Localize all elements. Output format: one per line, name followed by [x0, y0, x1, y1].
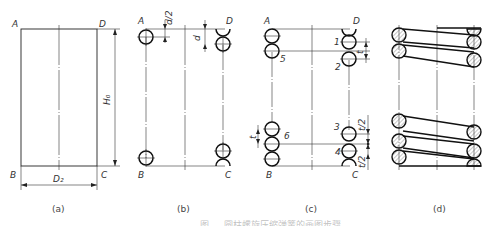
corner-label-a: A: [11, 19, 18, 29]
corner-label-d: D: [353, 16, 360, 26]
panel-b: d/2 d A D B C (b): [137, 10, 233, 214]
half-wire-dim-label: d/2: [164, 10, 174, 25]
half-pitch-top-label: t/2: [357, 118, 367, 131]
coil-number-6: 6: [284, 131, 290, 141]
coil-number-5: 5: [280, 54, 286, 64]
corner-label-d: D: [99, 19, 106, 29]
corner-label-b: B: [138, 170, 144, 180]
coil-number-1: 1: [334, 37, 340, 47]
coil-number-4: 4: [335, 147, 341, 157]
coil-number-3: 3: [334, 122, 340, 132]
panel-caption-c: (c): [305, 204, 317, 214]
corner-label-a: A: [263, 16, 270, 26]
panel-caption-d: (d): [433, 204, 446, 214]
half-pitch-bottom-label: t/2: [357, 155, 367, 168]
corner-label-c: C: [352, 170, 359, 180]
corner-label-c: C: [225, 170, 232, 180]
wire-dim-label: d: [192, 35, 202, 41]
corner-label-b: B: [266, 170, 272, 180]
panel-d: (d): [392, 25, 481, 214]
panel-caption-a: (a): [52, 204, 65, 214]
figure-caption: 图 … 圆柱螺旋压缩弹簧的画图步骤: [200, 219, 341, 226]
diameter-dim-label: D₂: [53, 174, 64, 184]
right-pitch-dim-label: t: [355, 50, 365, 54]
corner-label-d: D: [226, 16, 233, 26]
coil-number-2: 2: [335, 62, 341, 72]
corner-label-a: A: [137, 16, 144, 26]
left-pitch-dim-label: t: [248, 135, 258, 139]
height-dim-label: H₀: [102, 94, 112, 105]
panel-a: A D B C H₀ D₂ (a): [10, 19, 120, 214]
corner-label-c: C: [101, 170, 108, 180]
panel-c: t t t/2 t/2 A D B C 1 2 3 4 5 6: [248, 16, 370, 214]
panel-caption-b: (b): [177, 204, 190, 214]
corner-label-b: B: [10, 170, 16, 180]
spring-drawing-figure: A D B C H₀ D₂ (a) d/2 d: [0, 0, 495, 226]
